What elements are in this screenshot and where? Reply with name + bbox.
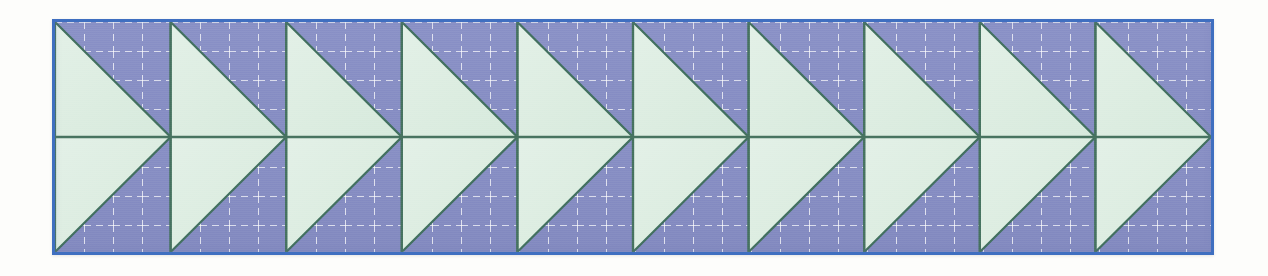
pattern-strip: [52, 19, 1214, 255]
figure-canvas: [0, 0, 1268, 276]
tessellation-svg: [55, 22, 1211, 252]
